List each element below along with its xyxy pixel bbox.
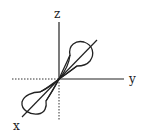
diagram-canvas: z y x — [0, 0, 149, 137]
x-axis-label: x — [13, 119, 20, 133]
orbital-diagram: z y x — [0, 0, 149, 137]
lower-lobe — [22, 79, 59, 114]
y-axis-label: y — [128, 72, 136, 86]
z-axis-label: z — [54, 7, 60, 21]
